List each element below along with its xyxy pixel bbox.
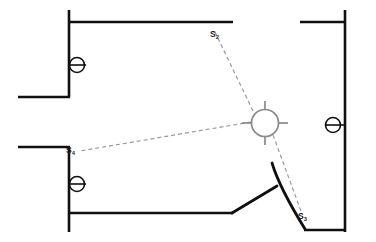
valve-lower-left[interactable] — [70, 177, 87, 192]
circle-crosshair-icon[interactable] — [252, 110, 279, 137]
label-s4-sub: 4 — [72, 150, 76, 156]
label-s4: S4 — [66, 145, 76, 156]
omni-sensor[interactable] — [242, 101, 288, 145]
valve-right[interactable] — [325, 118, 344, 133]
ray-to-s4 — [80, 122, 251, 151]
label-s3-sub: 3 — [304, 216, 308, 222]
diagram-canvas: S2 S4 S3 — [0, 0, 376, 242]
label-s3: S3 — [298, 211, 308, 222]
valve-upper-left[interactable] — [70, 58, 87, 73]
floor-plan-diagram: S2 S4 S3 — [0, 0, 376, 242]
label-s2-sub: 2 — [216, 34, 219, 40]
floor-diagonal — [232, 186, 277, 213]
ray-to-s2 — [214, 30, 253, 111]
walls-group — [18, 10, 346, 232]
label-s2: S2 — [210, 29, 219, 40]
door-group — [232, 163, 305, 229]
